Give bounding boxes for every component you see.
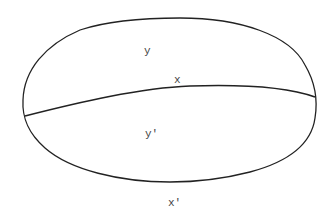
chord-curve	[25, 85, 315, 116]
label-y: y	[144, 45, 151, 57]
ellipse-diagram: y x y' x'	[0, 0, 335, 217]
label-x-prime: x'	[168, 197, 181, 209]
ellipse-outline	[23, 18, 316, 182]
label-y-prime: y'	[145, 128, 158, 140]
label-x: x	[174, 74, 181, 86]
